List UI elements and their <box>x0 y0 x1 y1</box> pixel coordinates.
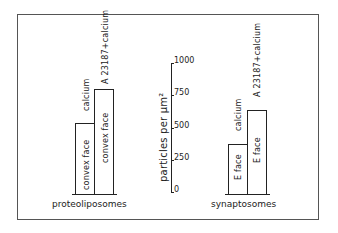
y-tick-label-250: 250 <box>174 153 189 162</box>
y-tick-label-750: 750 <box>174 88 189 97</box>
y-tick-label-1000: 1000 <box>174 56 194 65</box>
inner-label-proteoliposomes-a23187: convex face <box>101 113 110 163</box>
y-axis-label: particles per μm² <box>158 93 169 182</box>
group-label-synaptosomes: synaptosomes <box>211 199 276 209</box>
baseline-proteoliposomes <box>72 194 117 195</box>
inner-label-synaptosomes-calcium: E face <box>234 154 243 180</box>
top-label-proteoliposomes-a23187: A 23187+calcium <box>101 10 110 84</box>
inner-label-synaptosomes-a23187: E face <box>253 137 262 163</box>
y-tick-label-500: 500 <box>174 121 189 130</box>
top-label-synaptosomes-calcium: calcium <box>234 99 243 131</box>
y-tick-label-0: 0 <box>174 185 179 194</box>
group-label-proteoliposomes: proteoliposomes <box>52 199 127 209</box>
top-label-synaptosomes-a23187: A 23187+calcium <box>253 23 262 97</box>
inner-label-proteoliposomes-calcium: convex face <box>82 140 91 190</box>
top-label-proteoliposomes-calcium: calcium <box>82 79 91 111</box>
baseline-synaptosomes <box>225 194 270 195</box>
